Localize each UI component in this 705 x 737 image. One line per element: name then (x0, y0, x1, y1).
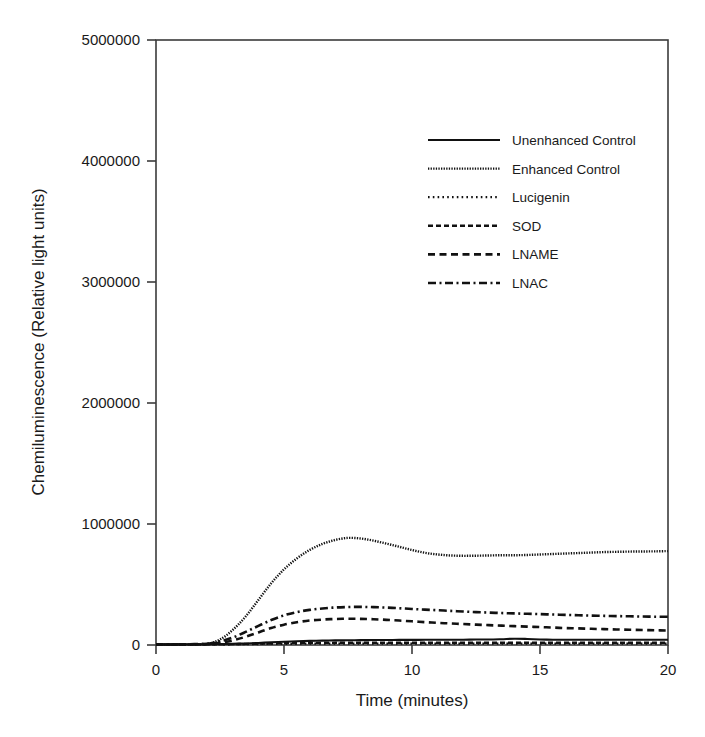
legend-label-enhanced-control: Enhanced Control (512, 162, 620, 177)
x-tick-label: 0 (152, 661, 160, 678)
chart-figure: 010000002000000300000040000005000000 051… (0, 0, 705, 737)
x-tick-label: 20 (660, 661, 677, 678)
y-tick-label: 5000000 (82, 31, 140, 48)
y-tick-label: 1000000 (82, 515, 140, 532)
y-axis-title: Chemiluminescence (Relative light units) (29, 188, 48, 495)
x-axis-title: Time (minutes) (356, 691, 469, 710)
x-tick-label: 15 (532, 661, 549, 678)
y-tick-label: 3000000 (82, 273, 140, 290)
legend-label-unenhanced-control: Unenhanced Control (512, 133, 636, 148)
y-tick-label: 0 (132, 636, 140, 653)
legend-label-lucigenin: Lucigenin (512, 190, 570, 205)
y-tick-label: 2000000 (82, 394, 140, 411)
x-tick-label: 5 (280, 661, 288, 678)
line-chart: 010000002000000300000040000005000000 051… (0, 0, 705, 737)
legend-label-sod: SOD (512, 219, 542, 234)
legend-label-lname: LNAME (512, 247, 559, 262)
y-tick-label: 4000000 (82, 152, 140, 169)
chart-background (0, 0, 705, 737)
legend-label-lnac: LNAC (512, 276, 548, 291)
x-tick-label: 10 (404, 661, 421, 678)
